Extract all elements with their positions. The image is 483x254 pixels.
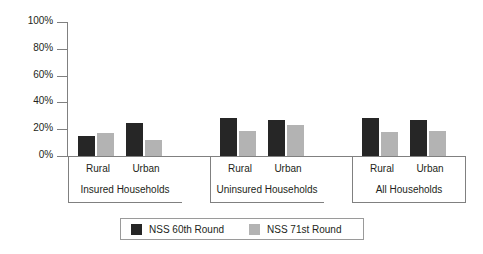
bar-pair [76,22,120,156]
group-underline [352,202,466,203]
bar-pair [408,22,452,156]
bar [429,131,446,156]
y-axis-tick-label: 20% [33,122,53,134]
y-axis-tick-label: 40% [33,95,53,107]
group-separator [352,157,353,203]
bar [97,133,114,156]
bar [410,120,427,156]
x-axis-group-label: All Households [352,183,466,196]
group-separator [465,157,466,203]
category-group-block: RuralUrbanUninsured Households [210,157,324,203]
x-axis-group-label: Uninsured Households [210,183,324,196]
y-axis-tick-mark [57,129,67,130]
x-axis-category-label: Rural [76,162,120,175]
bar [239,131,256,156]
legend-item-series-1: NSS 60th Round [131,219,224,239]
bar-group [70,22,182,156]
category-group-block: RuralUrbanInsured Households [68,157,182,203]
y-axis-tick-mark [57,76,67,77]
bar [287,125,304,156]
y-axis-tick-label: 100% [28,15,53,27]
bar [78,136,95,156]
bar [126,123,143,157]
bar [381,132,398,156]
x-axis-category-label: Urban [266,162,310,175]
plot-area [68,22,466,156]
bar-pair [124,22,168,156]
bar [268,120,285,156]
x-axis-category-label: Rural [360,162,404,175]
bar [145,140,162,156]
y-axis-tick-label: 80% [33,42,53,54]
bar-pair [266,22,310,156]
group-separator [210,157,211,203]
legend-label: NSS 71st Round [267,223,342,236]
bar-chart: 0%20%40%60%80%100% RuralUrbanInsured Hou… [0,0,483,254]
chart-legend: NSS 60th Round NSS 71st Round [120,218,364,240]
legend-item-series-2: NSS 71st Round [249,219,342,239]
y-axis-tick-mark [57,22,67,23]
category-group-block: RuralUrbanAll Households [352,157,466,203]
x-axis-group-label: Insured Households [68,183,182,196]
bar-group [354,22,466,156]
bar [220,118,237,156]
x-axis-category-label: Rural [218,162,262,175]
category-label-band: RuralUrbanInsured HouseholdsRuralUrbanUn… [0,157,483,203]
group-separator [68,157,69,203]
group-underline [68,202,182,203]
bar-group [212,22,324,156]
x-axis-category-label: Urban [124,162,168,175]
legend-label: NSS 60th Round [149,223,224,236]
legend-swatch-icon [249,224,260,235]
y-axis-tick-label: 60% [33,69,53,81]
legend-swatch-icon [131,224,142,235]
x-axis-category-label: Urban [408,162,452,175]
bar [362,118,379,156]
y-axis-tick-mark [57,102,67,103]
group-underline [210,202,324,203]
bar-pair [218,22,262,156]
y-axis-tick-mark [57,49,67,50]
bar-pair [360,22,404,156]
